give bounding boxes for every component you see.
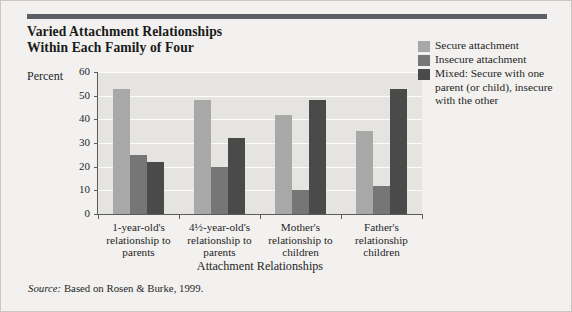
plot-area <box>98 72 422 214</box>
title-line-2: Within Each Family of Four <box>27 40 347 56</box>
legend-label: Secure attachment <box>435 39 568 52</box>
y-tick-label: 60 <box>64 65 90 77</box>
top-rule-divider <box>27 14 547 19</box>
legend-item: Secure attachment <box>418 39 568 52</box>
y-tick-label: 50 <box>64 89 90 101</box>
y-tick-label: 40 <box>64 112 90 124</box>
bar <box>275 115 292 214</box>
gridline <box>98 96 422 97</box>
y-tick-mark <box>94 119 98 120</box>
y-tick-mark <box>94 143 98 144</box>
page-title: Varied Attachment Relationships Within E… <box>27 24 347 56</box>
x-category-label-line: Father's <box>333 221 430 234</box>
legend-swatch <box>418 55 430 66</box>
y-axis-label: Percent <box>27 69 63 84</box>
bar <box>147 162 164 214</box>
y-tick-label: 0 <box>64 207 90 219</box>
y-tick-mark <box>94 190 98 191</box>
legend: Secure attachmentInsecure attachmentMixe… <box>418 39 568 108</box>
x-tick-mark <box>98 215 99 219</box>
x-category-label-line: relationship <box>333 234 430 247</box>
figure-panel: Varied Attachment Relationships Within E… <box>0 0 572 312</box>
legend-label: Mixed: Secure with one parent (or child)… <box>435 67 568 107</box>
source-note: Source: Based on Rosen & Burke, 1999. <box>28 282 203 294</box>
bar <box>373 186 390 214</box>
bar <box>309 100 326 214</box>
bar <box>194 100 211 214</box>
source-text: Based on Rosen & Burke, 1999. <box>61 282 203 294</box>
legend-swatch <box>418 69 430 80</box>
bar <box>356 131 373 214</box>
y-tick-label: 30 <box>64 136 90 148</box>
x-tick-mark <box>341 215 342 219</box>
title-line-1: Varied Attachment Relationships <box>27 24 347 40</box>
y-tick-label: 20 <box>64 160 90 172</box>
y-tick-label: 10 <box>64 183 90 195</box>
y-tick-mark <box>94 167 98 168</box>
legend-label: Insecure attachment <box>435 53 568 66</box>
x-category-label-line: children <box>333 246 430 259</box>
gridline <box>98 143 422 144</box>
x-category-label: Father'srelationshipchildren <box>333 221 430 259</box>
bar <box>211 167 228 214</box>
bar <box>390 89 407 214</box>
bar <box>130 155 147 214</box>
source-prefix: Source: <box>28 282 61 294</box>
bar <box>292 190 309 214</box>
legend-swatch <box>418 41 430 52</box>
gridline <box>98 119 422 120</box>
x-axis-title: Attachment Relationships <box>98 259 422 274</box>
legend-item: Mixed: Secure with one parent (or child)… <box>418 67 568 107</box>
y-tick-mark <box>94 96 98 97</box>
gridline <box>98 72 422 73</box>
x-tick-mark <box>179 215 180 219</box>
legend-item: Insecure attachment <box>418 53 568 66</box>
bar <box>228 138 245 214</box>
y-tick-mark <box>94 72 98 73</box>
bar <box>113 89 130 214</box>
x-tick-mark <box>260 215 261 219</box>
x-tick-mark <box>422 215 423 219</box>
